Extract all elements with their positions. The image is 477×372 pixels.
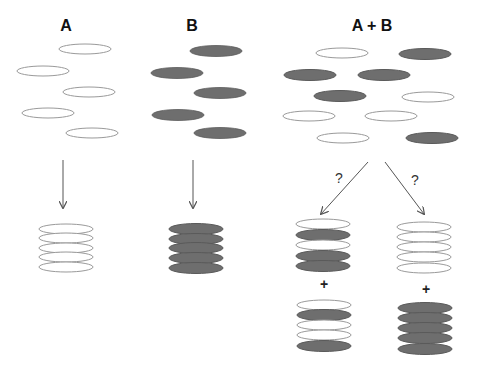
diagram-canvas <box>0 0 477 372</box>
plus-left: + <box>320 276 328 292</box>
stack-a <box>39 224 93 272</box>
label-a-plus-b: A + B <box>352 17 393 35</box>
stack-ab-left-bottom <box>297 300 351 352</box>
panel-ab-discs <box>283 48 458 144</box>
panel-a-discs <box>17 44 118 138</box>
stack-ab-right-top <box>397 222 451 273</box>
stack-ab-right-bottom <box>398 303 452 355</box>
question-left: ? <box>335 170 343 186</box>
panel-b-discs <box>151 46 246 139</box>
label-b: B <box>186 17 198 35</box>
stack-b <box>169 224 223 274</box>
plus-right: + <box>422 281 430 297</box>
label-a: A <box>60 17 72 35</box>
question-right: ? <box>411 172 419 188</box>
stack-ab-left-top <box>296 219 350 272</box>
arrows <box>63 160 424 214</box>
